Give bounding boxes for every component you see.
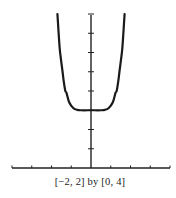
graph-plot [0, 0, 176, 198]
window-caption: [−2, 2] by [0, 4] [0, 176, 176, 187]
